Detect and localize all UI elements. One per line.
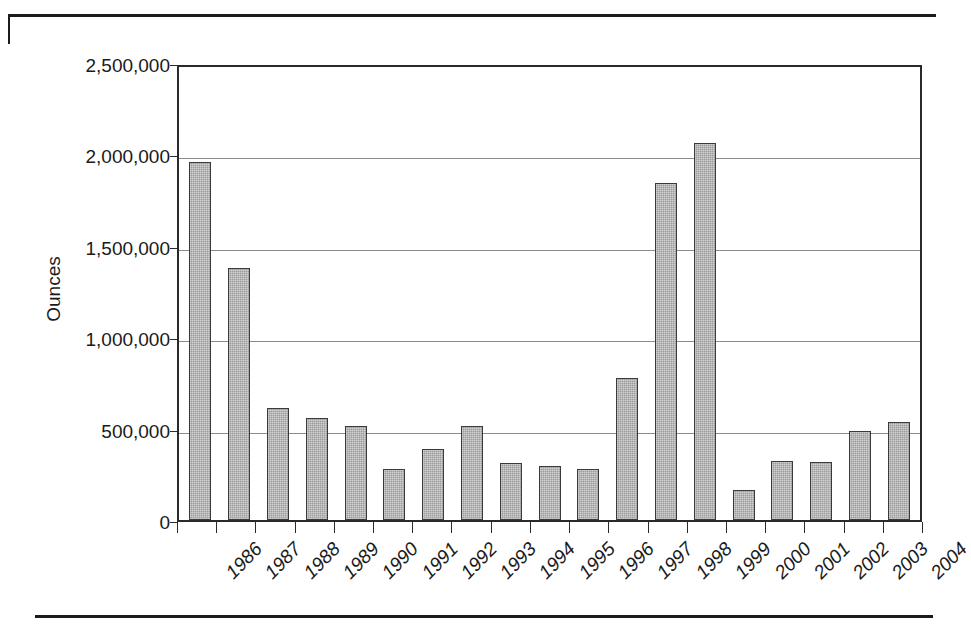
bar-slot: [453, 67, 492, 520]
y-axis-tick-labels: 0500,0001,000,0001,500,0002,000,0002,500…: [40, 0, 170, 627]
x-tick-label-2004: 2004: [927, 538, 971, 583]
y-tick-label: 2,000,000: [85, 147, 170, 166]
bar-1989[interactable]: [306, 418, 328, 520]
bar-slot: [569, 67, 608, 520]
bar-1999[interactable]: [694, 143, 716, 520]
bar-slot: [220, 67, 259, 520]
x-tick-mark: [491, 522, 492, 533]
x-tick-mark: [726, 522, 727, 533]
x-tick-label-1998: 1998: [692, 538, 737, 583]
x-tick-label-2001: 2001: [809, 538, 854, 583]
bar-2001[interactable]: [771, 461, 793, 520]
bar-2003[interactable]: [849, 431, 871, 520]
bar-2004[interactable]: [888, 422, 910, 520]
x-tick-label-1999: 1999: [731, 538, 776, 583]
y-tick-label: 1,000,000: [85, 330, 170, 349]
x-axis-tick-marks: [177, 522, 922, 534]
x-tick-mark: [648, 522, 649, 533]
x-tick-label-1995: 1995: [574, 538, 619, 583]
bar-slot: [841, 67, 880, 520]
plot-area: [177, 65, 922, 522]
y-tick-mark: [170, 522, 177, 523]
y-tick-mark: [170, 65, 177, 66]
x-tick-mark: [687, 522, 688, 533]
bar-2000[interactable]: [733, 490, 755, 520]
bar-1993[interactable]: [461, 426, 483, 520]
bar-slot: [530, 67, 569, 520]
bar-1991[interactable]: [383, 469, 405, 520]
bar-slot: [181, 67, 220, 520]
x-axis-tick-labels: 1986198719881989199019911992199319941995…: [177, 534, 922, 614]
bar-slot: [685, 67, 724, 520]
bar-1996[interactable]: [577, 469, 599, 520]
x-tick-label-1989: 1989: [339, 538, 384, 583]
x-tick-label-1996: 1996: [613, 538, 658, 583]
x-tick-mark: [255, 522, 256, 533]
bar-slot: [375, 67, 414, 520]
x-tick-label-1986: 1986: [221, 538, 266, 583]
x-tick-label-2000: 2000: [770, 538, 815, 583]
y-tick-label: 0: [159, 513, 170, 532]
bar-series: [179, 67, 920, 520]
bar-slot: [879, 67, 918, 520]
x-tick-mark: [373, 522, 374, 533]
bar-slot: [297, 67, 336, 520]
x-tick-label-1988: 1988: [299, 538, 344, 583]
x-tick-label-2002: 2002: [848, 538, 893, 583]
bar-slot: [802, 67, 841, 520]
y-tick-label: 500,000: [101, 421, 170, 440]
bar-slot: [608, 67, 647, 520]
x-tick-label-1991: 1991: [417, 538, 462, 583]
x-tick-mark: [530, 522, 531, 533]
bar-slot: [491, 67, 530, 520]
x-tick-label-1990: 1990: [378, 538, 423, 583]
x-tick-mark: [922, 522, 923, 533]
x-tick-mark: [216, 522, 217, 533]
bar-slot: [414, 67, 453, 520]
x-tick-mark: [765, 522, 766, 533]
bar-1987[interactable]: [228, 268, 250, 520]
bar-1995[interactable]: [539, 466, 561, 520]
x-tick-mark: [844, 522, 845, 533]
bar-slot: [336, 67, 375, 520]
x-tick-mark: [412, 522, 413, 533]
bar-2002[interactable]: [810, 462, 832, 520]
y-tick-mark: [170, 248, 177, 249]
bar-1988[interactable]: [267, 408, 289, 520]
x-tick-mark: [295, 522, 296, 533]
bar-1997[interactable]: [616, 378, 638, 520]
bar-1994[interactable]: [500, 463, 522, 520]
x-tick-label-1987: 1987: [260, 538, 305, 583]
x-tick-label-1997: 1997: [652, 538, 697, 583]
x-tick-label-1992: 1992: [456, 538, 501, 583]
x-tick-mark: [804, 522, 805, 533]
bar-1998[interactable]: [655, 183, 677, 520]
x-tick-mark: [177, 522, 178, 533]
y-tick-mark: [170, 156, 177, 157]
bar-1990[interactable]: [345, 426, 367, 520]
x-tick-label-2003: 2003: [888, 538, 933, 583]
bar-1986[interactable]: [189, 162, 211, 520]
x-tick-mark: [451, 522, 452, 533]
x-tick-mark: [883, 522, 884, 533]
bar-slot: [647, 67, 686, 520]
x-tick-label-1993: 1993: [495, 538, 540, 583]
x-tick-mark: [569, 522, 570, 533]
y-tick-label: 1,500,000: [85, 238, 170, 257]
x-tick-label-1994: 1994: [535, 538, 580, 583]
y-tick-mark: [170, 431, 177, 432]
bar-slot: [259, 67, 298, 520]
bar-1992[interactable]: [422, 449, 444, 520]
y-tick-label: 2,500,000: [85, 56, 170, 75]
x-tick-mark: [334, 522, 335, 533]
bar-slot: [763, 67, 802, 520]
x-tick-mark: [608, 522, 609, 533]
bar-slot: [724, 67, 763, 520]
y-tick-mark: [170, 339, 177, 340]
